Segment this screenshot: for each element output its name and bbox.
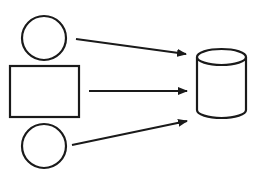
diagram-canvas xyxy=(0,0,258,183)
arrow-top-to-database xyxy=(76,39,186,54)
top-circle-node xyxy=(22,16,66,60)
middle-rectangle-node xyxy=(10,66,79,117)
database-cylinder-node xyxy=(197,49,246,118)
bottom-circle-node xyxy=(22,124,66,168)
cylinder-top xyxy=(197,49,246,65)
arrow-bottom-to-database xyxy=(72,121,187,145)
cylinder-body xyxy=(197,57,246,118)
